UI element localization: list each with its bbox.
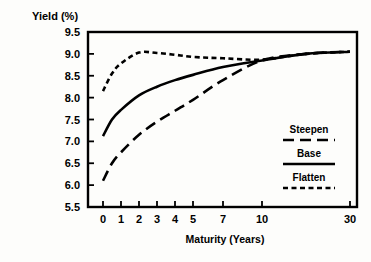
y-tick-label: 8.0 — [65, 92, 80, 104]
y-tick-label: 8.5 — [65, 70, 80, 82]
y-tick-label: 6.5 — [65, 157, 80, 169]
x-tick-label: 0 — [100, 213, 106, 225]
x-tick-label: 10 — [256, 213, 268, 225]
x-tick-label: 30 — [344, 213, 356, 225]
legend-label-base: Base — [297, 148, 321, 159]
series-line-flatten — [103, 52, 350, 91]
y-tick-label: 5.5 — [65, 201, 80, 213]
series-line-steepen — [103, 52, 350, 181]
y-tick-label: 9.0 — [65, 48, 80, 60]
y-axis-title: Yield (%) — [32, 10, 78, 22]
legend-label-flatten: Flatten — [293, 172, 326, 183]
y-tick-label: 9.5 — [65, 26, 80, 38]
legend-label-steepen: Steepen — [290, 124, 329, 135]
x-tick-label: 5 — [190, 213, 196, 225]
x-tick-label: 2 — [136, 213, 142, 225]
y-tick-label: 6.0 — [65, 179, 80, 191]
yield-curve-chart: 9.59.08.58.07.57.06.56.05.501234571030Yi… — [0, 0, 371, 262]
y-tick-label: 7.5 — [65, 114, 80, 126]
x-tick-label: 4 — [172, 213, 179, 225]
chart-container: 9.59.08.58.07.57.06.56.05.501234571030Yi… — [0, 0, 371, 262]
x-axis-title: Maturity (Years) — [186, 233, 265, 245]
x-tick-label: 3 — [154, 213, 160, 225]
x-tick-label: 7 — [220, 213, 226, 225]
x-tick-label: 1 — [118, 213, 124, 225]
y-tick-label: 7.0 — [65, 135, 80, 147]
